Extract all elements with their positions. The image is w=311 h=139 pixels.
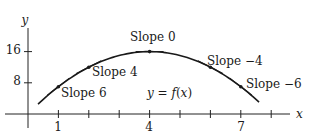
x-tick-label-1: 1 (54, 120, 62, 134)
slope-label-0: Slope 0 (130, 30, 176, 44)
function-label-eq: = (154, 86, 172, 100)
y-tick-label-8: 8 (13, 74, 21, 88)
slope-label-neg4: Slope −4 (207, 54, 263, 68)
y-axis-label: y (21, 13, 29, 27)
function-label-close: ) (187, 86, 192, 100)
tangent-point (57, 85, 61, 89)
slope-label-neg6: Slope −6 (246, 77, 302, 91)
x-axis-label: x (296, 107, 303, 121)
tangent-point (148, 50, 152, 54)
y-tick-label-16: 16 (6, 43, 21, 57)
slope-label-6: Slope 6 (61, 86, 107, 100)
chart: y x 1 4 7 16 8 Slope 6 Slope 4 Slope 0 S… (0, 0, 311, 139)
slope-label-4: Slope 4 (92, 65, 138, 79)
x-tick-label-7: 7 (237, 120, 245, 134)
x-tick-label-4: 4 (145, 120, 153, 134)
tangent-point (87, 65, 91, 69)
tangent-point (239, 85, 243, 89)
function-label: y = f(x) (146, 86, 192, 100)
